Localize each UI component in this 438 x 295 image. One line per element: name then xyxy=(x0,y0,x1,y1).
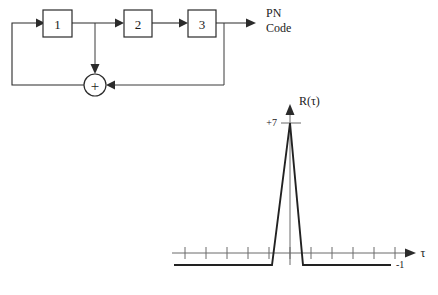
arrow-into-stage-2 xyxy=(115,19,124,28)
y-tick-label-minus1: -1 xyxy=(396,259,404,270)
pn-code-label-line2: Code xyxy=(266,21,291,35)
pn-code-label-line1: PN xyxy=(266,6,282,20)
arrow-pn-code-output xyxy=(246,19,256,28)
x-axis-label: τ xyxy=(421,246,426,260)
figure-svg: 1 2 3 + PN Code τ R(τ) xyxy=(0,0,438,295)
stage-3-label: 3 xyxy=(199,17,206,32)
arrow-into-stage-3 xyxy=(179,19,188,28)
autocorrelation-chart: τ R(τ) +7 -1 xyxy=(172,94,426,270)
adder-plus-symbol: + xyxy=(91,78,99,94)
stage-2-label: 2 xyxy=(135,17,142,32)
arrow-into-adder-right xyxy=(106,81,115,90)
arrow-into-adder-top xyxy=(91,64,100,74)
y-tick-label-plus7: +7 xyxy=(266,117,277,128)
y-axis-arrowhead xyxy=(286,104,295,115)
stage-1-label: 1 xyxy=(54,17,61,32)
y-axis-label: R(τ) xyxy=(299,94,320,108)
shift-register-diagram: 1 2 3 + PN Code xyxy=(12,6,291,96)
autocorrelation-curve xyxy=(174,123,391,265)
x-axis-arrowhead xyxy=(405,249,416,258)
figure-canvas: 1 2 3 + PN Code τ R(τ) xyxy=(0,0,438,295)
